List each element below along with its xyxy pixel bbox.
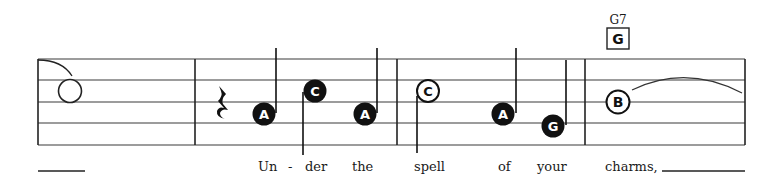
chord-box-letter: G	[612, 31, 624, 47]
note-b-open: B	[607, 91, 630, 114]
lyric-syllable: Un	[258, 159, 278, 174]
note-whole-open	[59, 80, 82, 103]
lyric-word: your	[536, 159, 568, 174]
lyrics: Un - der the spell of your charms,	[38, 159, 745, 174]
note-letter: B	[613, 94, 624, 110]
note-a-filled: A	[492, 48, 517, 126]
note-letter: A	[498, 107, 508, 122]
note-c-filled: C	[303, 80, 327, 156]
chord-symbol: G7 G	[607, 13, 629, 49]
note-letter: C	[310, 84, 320, 99]
note-a-filled: A	[354, 48, 378, 126]
note-letter: C	[423, 84, 433, 99]
note-letter: A	[259, 107, 269, 122]
note-c-open: C	[417, 80, 439, 153]
lyric-syllable: der	[305, 159, 328, 174]
lyric-hyphen: -	[288, 159, 292, 174]
staff	[38, 59, 745, 145]
note-g-filled: G	[542, 60, 567, 138]
lyric-word: charms,	[605, 159, 658, 174]
note-letter: G	[548, 119, 559, 134]
music-score: A C A C A G G7 G B Un -	[0, 0, 781, 189]
lyric-word: of	[498, 159, 512, 174]
lyric-word: spell	[414, 159, 445, 174]
tie-arc-start	[38, 60, 72, 76]
chord-name: G7	[609, 13, 626, 27]
note-letter: A	[360, 107, 370, 122]
note-a-filled: A	[253, 48, 277, 126]
lyric-word: the	[352, 159, 374, 174]
